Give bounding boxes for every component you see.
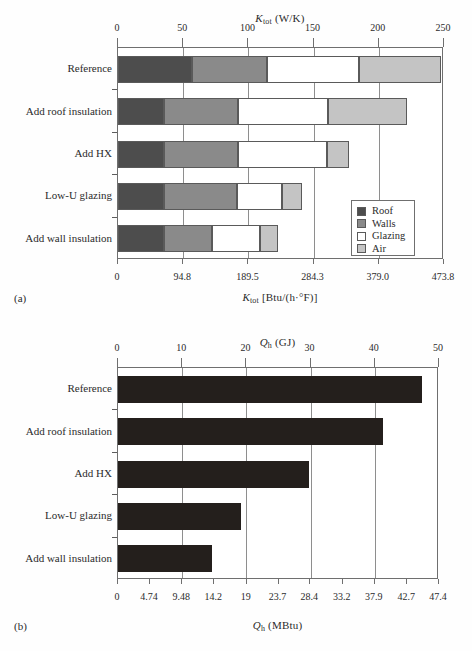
- panel-b-xtick-label-bottom: 28.4: [301, 591, 319, 602]
- panel-b-xtick-label-top: 10: [176, 342, 186, 353]
- bar-segment-air: [282, 183, 302, 210]
- panel-a-xtick-label-bottom: 379.0: [367, 271, 390, 282]
- bar-segment-walls: [192, 56, 266, 83]
- panel-b-category-label: Low-U glazing: [45, 509, 112, 521]
- panel-b-category-label: Add roof insulation: [26, 425, 112, 437]
- bar-segment-glazing: [238, 98, 328, 125]
- bar-segment: [118, 503, 241, 530]
- panel-b-xtick-top: [245, 358, 246, 367]
- panel-b-xtick-label-top: 40: [369, 342, 379, 353]
- bar: [118, 141, 442, 168]
- panel-a-top-axis-title: Ktot (W/K): [117, 12, 443, 26]
- panel-a-xtick-top: [378, 38, 379, 47]
- legend-label: Roof: [372, 206, 393, 217]
- panel-b-category-tick: [112, 409, 117, 410]
- panel-a-xtick-bottom: [378, 259, 379, 264]
- panel-a-xtick-label-top: 0: [115, 22, 120, 33]
- panel-b-xtick-bottom: [278, 579, 279, 584]
- panel-b-xtick-label-bottom: 33.2: [333, 591, 351, 602]
- bar: [118, 503, 437, 530]
- panel-b-xtick-bottom: [213, 579, 214, 584]
- legend-item: Walls: [357, 218, 407, 231]
- panel-a-xtick-label-bottom: 284.3: [301, 271, 324, 282]
- panel-b-xtick-label-top: 20: [240, 342, 250, 353]
- legend-item: Glazing: [357, 230, 407, 243]
- panel-a-xtick-top: [313, 38, 314, 47]
- legend-swatch-glazing: [357, 232, 366, 241]
- panel-b-xtick-label-top: 50: [433, 342, 443, 353]
- bar: [118, 418, 437, 445]
- panel-a-xtick-bottom: [117, 259, 118, 264]
- panel-b-xtick-label-bottom: 14.2: [204, 591, 222, 602]
- panel-a-bottom-axis-title: Ktot [Btu/(h·°F)]: [117, 291, 443, 305]
- bar-segment-walls: [164, 225, 212, 252]
- panel-b-xtick-top: [310, 358, 311, 367]
- bar-segment-walls: [164, 141, 238, 168]
- legend-swatch-walls: [357, 219, 366, 228]
- panel-b-top-axis-title: Qh (GJ): [117, 336, 438, 350]
- panel-b-xtick-label-bottom: 0: [115, 591, 120, 602]
- panel-b-xtick-label-top: 0: [115, 342, 120, 353]
- legend-label: Glazing: [372, 231, 405, 242]
- panel-b-xtick-top: [181, 358, 182, 367]
- legend-label: Walls: [372, 219, 396, 230]
- panel-b-xtick-top: [117, 358, 118, 367]
- bar-segment-roof: [118, 56, 192, 83]
- panel-b-xtick-bottom: [149, 579, 150, 584]
- panel-a-category-tick: [112, 132, 117, 133]
- bar: [118, 376, 437, 403]
- panel-a-xtick-top: [247, 38, 248, 47]
- bar-segment-air: [328, 98, 408, 125]
- bar-segment-glazing: [237, 183, 283, 210]
- panel-b-xtick-bottom: [117, 579, 118, 584]
- panel-b-plot-area: [117, 367, 438, 579]
- panel-b-xtick-bottom: [342, 579, 343, 584]
- bar: [118, 98, 442, 125]
- bar-segment-air: [359, 56, 441, 83]
- panel-b-xtick-label-top: 30: [305, 342, 315, 353]
- panel-a-category-label: Add wall insulation: [25, 232, 112, 244]
- panel-b-xtick-bottom: [406, 579, 407, 584]
- bar-segment-roof: [118, 141, 164, 168]
- panel-a-legend: RoofWallsGlazingAir: [351, 200, 415, 256]
- bar-segment-air: [260, 225, 278, 252]
- bar-segment-glazing: [238, 141, 327, 168]
- panel-a-xtick-label-top: 200: [370, 22, 385, 33]
- panel-b-xtick-label-bottom: 9.48: [172, 591, 190, 602]
- panel-b-tag: (b): [14, 620, 27, 632]
- legend-swatch-air: [357, 244, 366, 253]
- chart-panel-a: Ktot (W/K) Ktot [Btu/(h·°F)] (a) 0501001…: [0, 0, 472, 318]
- panel-a-xtick-bottom: [182, 259, 183, 264]
- bar-segment-glazing: [267, 56, 360, 83]
- bar-segment-walls: [164, 183, 237, 210]
- panel-b-xtick-label-bottom: 47.4: [429, 591, 447, 602]
- panel-a-category-label: Add roof insulation: [26, 105, 112, 117]
- panel-a-category-tick: [112, 217, 117, 218]
- panel-a-category-tick: [112, 174, 117, 175]
- chart-panel-b: Qh (GJ) Qh (MBtu) (b) 0102030405004.749.…: [0, 330, 472, 651]
- panel-b-category-tick: [112, 494, 117, 495]
- panel-a-xtick-bottom: [443, 259, 444, 264]
- panel-a-category-tick: [112, 89, 117, 90]
- bar-segment: [118, 418, 383, 445]
- panel-b-category-label: Reference: [67, 382, 112, 394]
- panel-a-category-label: Low-U glazing: [45, 189, 112, 201]
- bar-segment: [118, 545, 212, 572]
- panel-b-xtick-bottom: [181, 579, 182, 584]
- panel-a-category-label: Reference: [67, 62, 112, 74]
- panel-b-category-label: Add wall insulation: [25, 552, 112, 564]
- legend-item: Air: [357, 243, 407, 256]
- panel-b-xtick-label-bottom: 37.9: [365, 591, 383, 602]
- panel-a-xtick-label-bottom: 473.8: [432, 271, 455, 282]
- panel-a-xtick-bottom: [313, 259, 314, 264]
- panel-b-xtick-label-bottom: 19: [241, 591, 251, 602]
- bar: [118, 461, 437, 488]
- panel-b-xtick-bottom: [374, 579, 375, 584]
- panel-a-tag: (a): [14, 292, 26, 304]
- legend-label: Air: [372, 244, 386, 255]
- panel-b-xtick-label-bottom: 42.7: [397, 591, 415, 602]
- bar-segment-roof: [118, 225, 164, 252]
- panel-b-category-tick: [112, 537, 117, 538]
- bar-segment-air: [327, 141, 349, 168]
- panel-a-xtick-bottom: [247, 259, 248, 264]
